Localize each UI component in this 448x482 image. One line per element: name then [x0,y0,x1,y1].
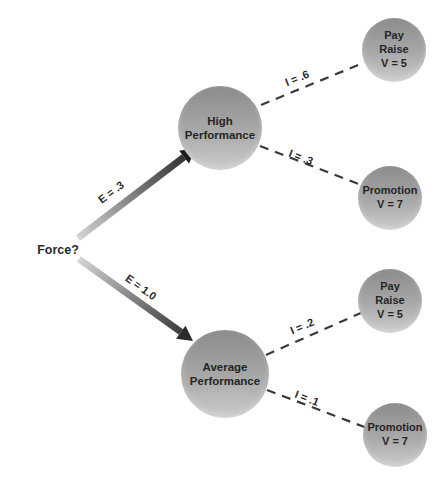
node-label: Average Performance [190,360,260,389]
node-promotion-high: Promotion V = 7 [358,166,422,230]
node-average-performance: Average Performance [181,330,269,418]
node-value: V = 7 [382,435,408,449]
node-high-performance: High Performance [178,86,262,170]
node-label: Promotion [363,184,418,198]
expectancy-arrow-average [79,259,193,341]
expectancy-diagram: Force? E = .3 E = 1.0 I = .6 I = .3 I = … [0,0,448,482]
instrumentality-link-high-pay-raise [261,63,363,105]
node-value: V = 7 [377,198,403,212]
node-label: Pay Raise [379,29,408,57]
node-value: V = 5 [381,57,407,71]
node-promotion-average: Promotion V = 7 [363,403,427,467]
node-label: Promotion [368,421,423,435]
node-label: Pay Raise [375,280,404,308]
instrumentality-link-average-pay-raise [266,312,363,355]
expectancy-arrow-high [78,148,196,238]
node-pay-raise-high: Pay Raise V = 5 [362,18,426,82]
node-label: High Performance [185,114,255,143]
root-question-label: Force? [37,243,79,257]
node-pay-raise-average: Pay Raise V = 5 [358,269,422,333]
node-value: V = 5 [377,308,403,322]
